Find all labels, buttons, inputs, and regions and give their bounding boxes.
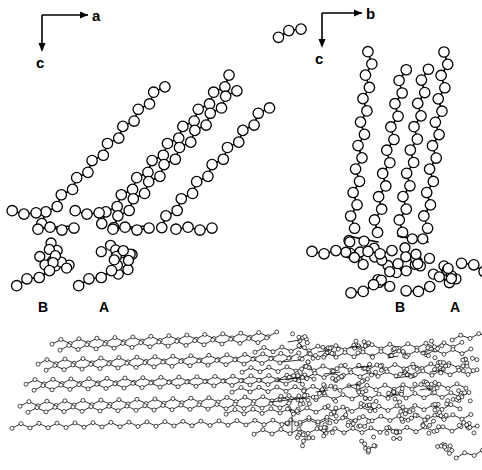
- atom: [472, 431, 476, 435]
- atom: [262, 423, 266, 427]
- axis-c-label: c: [36, 54, 44, 71]
- atom: [71, 405, 75, 409]
- atom: [403, 412, 407, 416]
- atom: [440, 344, 444, 348]
- atom: [199, 419, 203, 423]
- atom: [334, 399, 338, 403]
- atom: [315, 427, 319, 431]
- atom: [41, 384, 45, 388]
- atom: [398, 400, 402, 404]
- atom: [462, 420, 466, 424]
- atom: [247, 337, 251, 341]
- atom: [398, 372, 402, 376]
- atom: [408, 410, 412, 414]
- atom: [134, 408, 138, 412]
- atom: [221, 332, 225, 336]
- atom: [269, 407, 273, 411]
- atom: [409, 416, 413, 420]
- atom: [139, 188, 149, 198]
- atom: [239, 379, 243, 383]
- atom: [358, 424, 362, 428]
- atom: [269, 357, 273, 361]
- atom: [147, 155, 157, 165]
- atom: [266, 382, 270, 386]
- atom: [359, 236, 369, 246]
- atom: [234, 137, 244, 147]
- panel-projection-along-a: b c B A: [270, 0, 482, 320]
- atom: [392, 436, 396, 440]
- atom: [401, 266, 411, 276]
- atom: [441, 425, 445, 429]
- atom: [71, 172, 81, 182]
- atom: [345, 237, 355, 247]
- axis-b-label: b: [366, 5, 375, 22]
- atom: [401, 65, 411, 75]
- atom: [439, 47, 449, 57]
- atom: [427, 431, 431, 435]
- left-panel-molecules: [7, 70, 275, 291]
- atom: [465, 364, 469, 368]
- axis-indicator-bc: b c: [315, 5, 375, 67]
- atom: [195, 375, 199, 379]
- atom: [243, 352, 247, 356]
- atom: [427, 141, 437, 151]
- atom: [345, 407, 349, 411]
- atom: [144, 223, 154, 233]
- atom: [197, 359, 201, 363]
- atom: [363, 246, 373, 256]
- atom: [393, 363, 397, 367]
- atom: [149, 381, 153, 385]
- atom: [186, 137, 196, 147]
- atom: [291, 332, 295, 336]
- atom: [401, 204, 411, 214]
- atom: [397, 88, 407, 98]
- atom: [59, 337, 63, 341]
- atom: [386, 122, 396, 132]
- atom: [139, 341, 143, 345]
- bottom-panel-molecules: [10, 330, 482, 460]
- atom: [287, 356, 291, 360]
- atom: [120, 222, 130, 232]
- panel-projection-along-b: a c B A: [0, 0, 270, 320]
- atom: [308, 352, 312, 356]
- atom: [224, 363, 228, 367]
- atom: [446, 399, 450, 403]
- atom: [406, 342, 410, 346]
- atom: [238, 125, 248, 135]
- atom: [239, 386, 243, 390]
- atom: [345, 211, 355, 221]
- atom: [358, 286, 368, 296]
- atom: [215, 403, 219, 407]
- atom: [358, 259, 368, 269]
- atom: [433, 408, 437, 412]
- atom: [346, 288, 356, 298]
- atom: [340, 374, 344, 378]
- atom: [258, 370, 262, 374]
- atom: [460, 352, 464, 356]
- atom: [375, 249, 385, 259]
- atom: [170, 364, 174, 368]
- atom: [369, 215, 379, 225]
- atom: [57, 225, 67, 235]
- atom: [302, 389, 306, 393]
- atom: [341, 405, 345, 409]
- atom: [390, 99, 400, 109]
- atom: [365, 383, 369, 387]
- atom: [157, 340, 161, 344]
- atom: [28, 426, 32, 430]
- atom: [129, 116, 139, 126]
- atom: [252, 432, 256, 436]
- atom: [278, 398, 282, 402]
- atom: [376, 374, 380, 378]
- atom: [260, 411, 264, 415]
- atom: [456, 258, 466, 268]
- atom: [287, 394, 291, 398]
- atom: [401, 168, 411, 178]
- atom: [135, 397, 139, 401]
- atom: [419, 211, 429, 221]
- atom: [373, 191, 383, 201]
- atom: [362, 340, 366, 344]
- atom: [211, 338, 215, 342]
- molecule-label-b-right: B: [395, 299, 405, 315]
- atom: [221, 379, 225, 383]
